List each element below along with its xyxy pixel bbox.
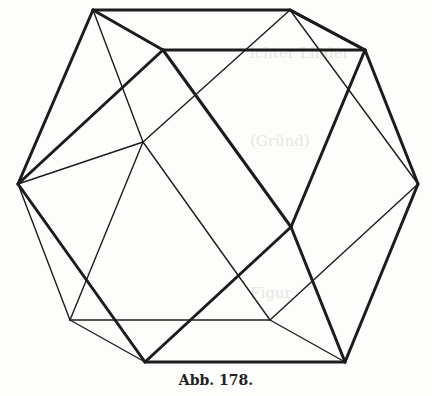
cuboctahedron-figure [0, 0, 432, 396]
book-page: ichter Linder (Gründ) Figur [0, 0, 432, 396]
hidden-edges [18, 10, 418, 362]
visible-edges [18, 10, 418, 362]
figure-caption: Abb. 178. [0, 372, 432, 388]
